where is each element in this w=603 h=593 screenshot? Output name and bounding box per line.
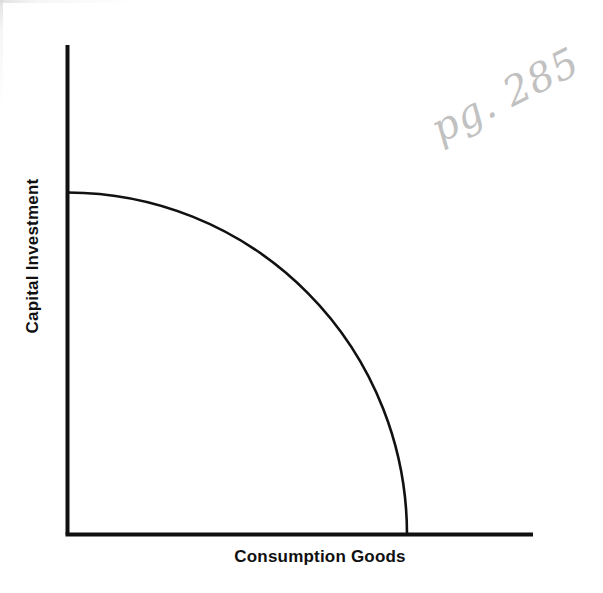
figure-canvas: Capital Investment Consumption Goods pg.… [0, 0, 603, 593]
ppf-curve [68, 193, 408, 535]
x-axis-label: Consumption Goods [234, 547, 406, 567]
y-axis-label: Capital Investment [23, 179, 43, 334]
